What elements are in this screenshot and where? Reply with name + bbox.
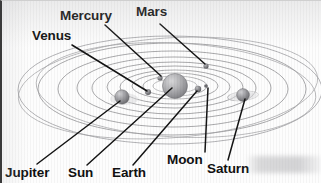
label-earth: Earth <box>112 166 146 180</box>
body-mercury <box>157 75 162 80</box>
label-jupiter: Jupiter <box>5 166 49 180</box>
venus-leader-line <box>72 45 147 91</box>
body-jupiter <box>115 90 129 104</box>
label-venus: Venus <box>32 29 71 43</box>
solar-system-figure: Mercury Venus Mars Jupiter Sun Earth Moo… <box>0 0 321 183</box>
label-mercury: Mercury <box>60 9 112 23</box>
label-mars: Mars <box>136 5 167 19</box>
mercury-leader-line <box>105 25 161 76</box>
label-moon: Moon <box>167 153 203 167</box>
body-earth <box>195 86 201 92</box>
body-sun <box>163 74 188 99</box>
body-moon <box>204 84 208 88</box>
label-sun: Sun <box>68 166 93 180</box>
body-saturn <box>237 89 250 102</box>
label-saturn: Saturn <box>207 162 249 176</box>
